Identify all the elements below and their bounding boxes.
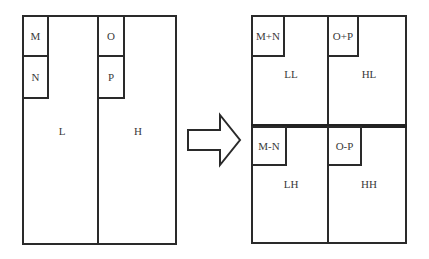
subband-o-minus-p-label: O-P bbox=[336, 140, 354, 152]
subband-n: N bbox=[22, 55, 49, 99]
subband-m-minus-n: M-N bbox=[251, 126, 287, 166]
quadrant-hl-label: HL bbox=[358, 69, 380, 80]
region-h-label: H bbox=[130, 126, 146, 137]
quadrant-ll-label: LL bbox=[280, 69, 302, 80]
subband-p: P bbox=[97, 55, 125, 99]
subband-m-minus-n-label: M-N bbox=[258, 140, 279, 152]
quadrant-hh-label: HH bbox=[358, 179, 380, 190]
subband-o-minus-p: O-P bbox=[327, 126, 362, 166]
subband-n-label: N bbox=[32, 71, 40, 83]
region-l-label: L bbox=[54, 126, 70, 137]
subband-o-plus-p-label: O+P bbox=[333, 30, 353, 42]
subband-m: M bbox=[22, 15, 49, 57]
subband-o-plus-p: O+P bbox=[327, 15, 359, 57]
subband-m-plus-n: M+N bbox=[251, 15, 285, 57]
right-arrow-icon bbox=[186, 112, 242, 168]
subband-m-label: M bbox=[31, 30, 41, 42]
subband-o: O bbox=[97, 15, 125, 57]
subband-o-label: O bbox=[107, 30, 115, 42]
quadrant-lh-label: LH bbox=[280, 179, 302, 190]
subband-m-plus-n-label: M+N bbox=[256, 30, 280, 42]
subband-p-label: P bbox=[108, 71, 114, 83]
